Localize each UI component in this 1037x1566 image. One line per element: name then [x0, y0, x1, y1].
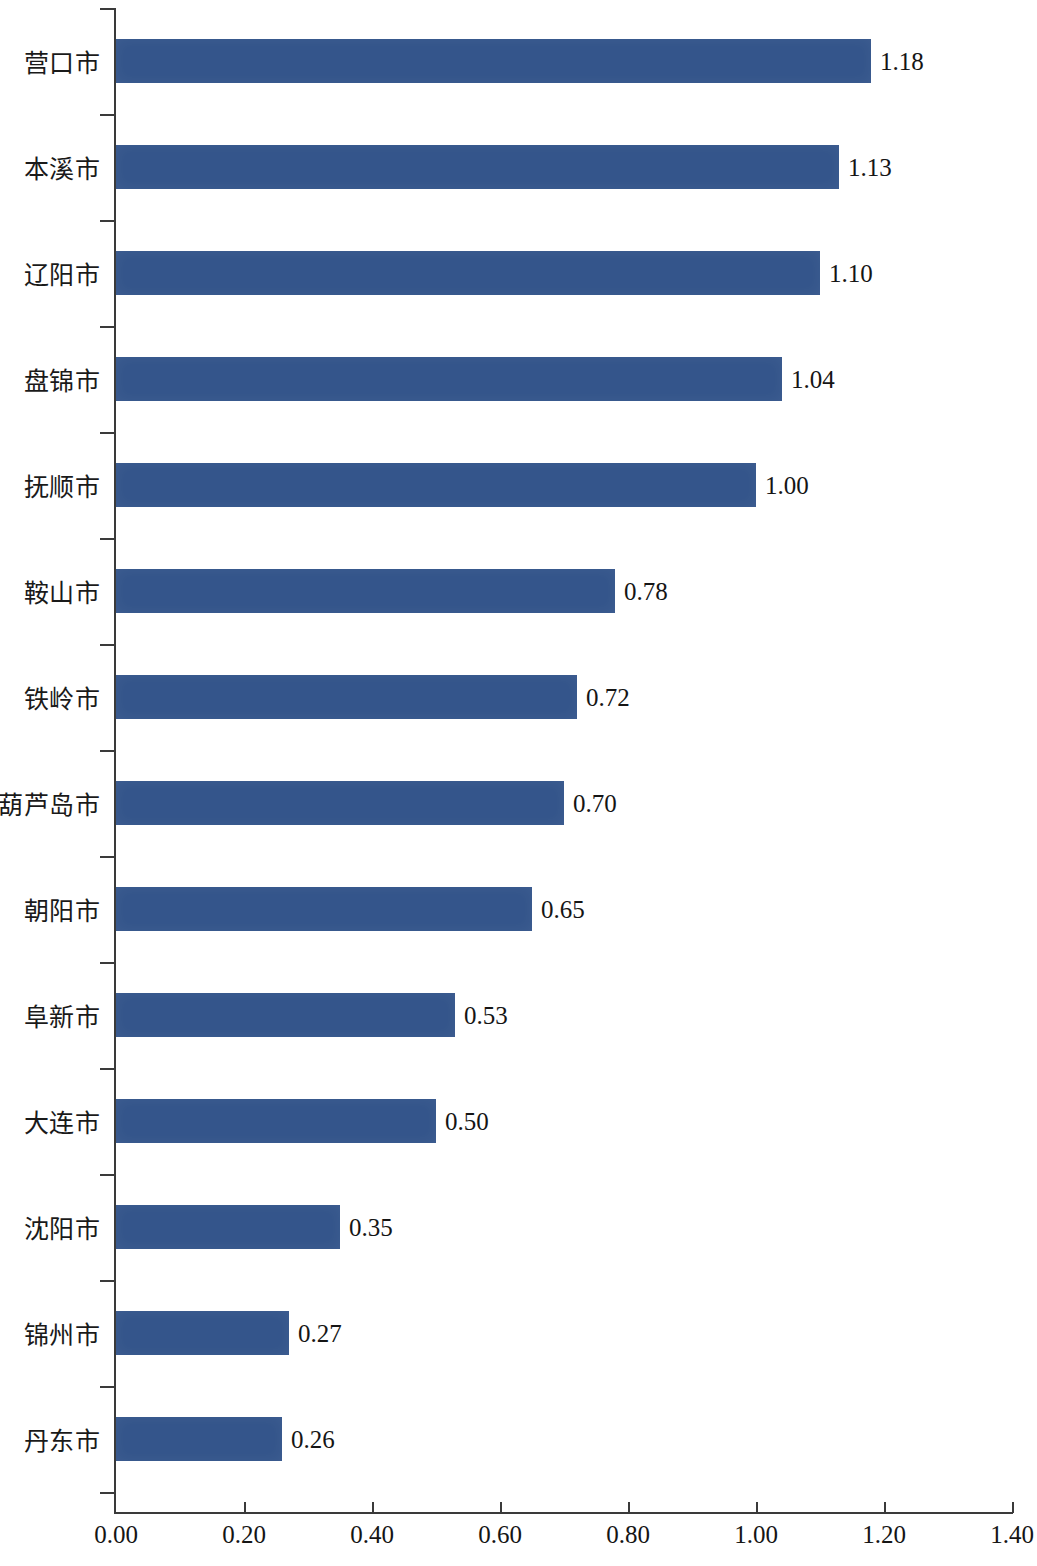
bar-and-value: 0.27 — [116, 1311, 342, 1355]
bar — [116, 1205, 340, 1249]
category-label: 朝阳市 — [0, 856, 100, 962]
bar-row: 丹东市0.26 — [0, 1386, 1037, 1492]
x-axis-tick-label: 0.80 — [568, 1521, 688, 1549]
bar-row: 鞍山市0.78 — [0, 538, 1037, 644]
category-label: 葫芦岛市 — [0, 750, 100, 856]
bar-value-label: 0.70 — [573, 791, 617, 816]
bar-value-label: 1.13 — [848, 155, 892, 180]
category-label: 阜新市 — [0, 962, 100, 1068]
bar-and-value: 0.35 — [116, 1205, 393, 1249]
category-label: 本溪市 — [0, 114, 100, 220]
x-axis-tick — [884, 1502, 886, 1513]
bar — [116, 1311, 289, 1355]
bar — [116, 463, 756, 507]
bar — [116, 781, 564, 825]
category-label: 营口市 — [0, 8, 100, 114]
category-label: 鞍山市 — [0, 538, 100, 644]
category-label: 锦州市 — [0, 1280, 100, 1386]
bar-and-value: 0.78 — [116, 569, 668, 613]
bar-row: 朝阳市0.65 — [0, 856, 1037, 962]
bar-value-label: 0.26 — [291, 1427, 335, 1452]
bar-and-value: 0.72 — [116, 675, 630, 719]
bar-value-label: 0.50 — [445, 1109, 489, 1134]
bar — [116, 675, 577, 719]
bar-value-label: 0.78 — [624, 579, 668, 604]
bar — [116, 1417, 282, 1461]
x-axis-tick-label: 0.60 — [440, 1521, 560, 1549]
bar-row: 铁岭市0.72 — [0, 644, 1037, 750]
bar — [116, 145, 839, 189]
x-axis-tick — [628, 1502, 630, 1513]
bar-row: 盘锦市1.04 — [0, 326, 1037, 432]
bar — [116, 251, 820, 295]
bar-row: 葫芦岛市0.70 — [0, 750, 1037, 856]
bar-value-label: 0.27 — [298, 1321, 342, 1346]
x-axis-tick — [1012, 1502, 1014, 1513]
category-label: 抚顺市 — [0, 432, 100, 538]
x-axis-tick-label: 1.00 — [696, 1521, 816, 1549]
bar-value-label: 1.04 — [791, 367, 835, 392]
x-axis-tick-label: 1.20 — [824, 1521, 944, 1549]
x-axis-line — [114, 1512, 1013, 1514]
x-axis-tick-label: 0.00 — [56, 1521, 176, 1549]
bar-and-value: 0.50 — [116, 1099, 489, 1143]
bar-value-label: 1.10 — [829, 261, 873, 286]
bar-value-label: 0.72 — [586, 685, 630, 710]
bar-value-label: 1.18 — [880, 49, 924, 74]
category-label: 丹东市 — [0, 1386, 100, 1492]
y-axis-tick — [100, 1492, 114, 1494]
bar-and-value: 0.65 — [116, 887, 585, 931]
bar-value-label: 0.35 — [349, 1215, 393, 1240]
category-label: 铁岭市 — [0, 644, 100, 750]
x-axis-tick — [756, 1502, 758, 1513]
category-label: 盘锦市 — [0, 326, 100, 432]
bar-row: 辽阳市1.10 — [0, 220, 1037, 326]
bar-row: 大连市0.50 — [0, 1068, 1037, 1174]
bar-and-value: 0.70 — [116, 781, 617, 825]
bar — [116, 569, 615, 613]
bar — [116, 887, 532, 931]
bar-value-label: 1.00 — [765, 473, 809, 498]
bar-and-value: 1.13 — [116, 145, 892, 189]
x-axis-tick-label: 0.40 — [312, 1521, 432, 1549]
bar-row: 锦州市0.27 — [0, 1280, 1037, 1386]
bar-row: 阜新市0.53 — [0, 962, 1037, 1068]
bar — [116, 357, 782, 401]
category-label: 辽阳市 — [0, 220, 100, 326]
category-label: 沈阳市 — [0, 1174, 100, 1280]
bar — [116, 39, 871, 83]
x-axis-tick-label: 0.20 — [184, 1521, 304, 1549]
bar-and-value: 1.00 — [116, 463, 809, 507]
bar-row: 抚顺市1.00 — [0, 432, 1037, 538]
bar-and-value: 0.26 — [116, 1417, 335, 1461]
x-axis-tick-label: 1.40 — [952, 1521, 1037, 1549]
bar-value-label: 0.53 — [464, 1003, 508, 1028]
x-axis-tick — [372, 1502, 374, 1513]
bar-row: 营口市1.18 — [0, 8, 1037, 114]
bar — [116, 1099, 436, 1143]
category-label: 大连市 — [0, 1068, 100, 1174]
bar-and-value: 1.10 — [116, 251, 873, 295]
bar-row: 沈阳市0.35 — [0, 1174, 1037, 1280]
bar-row: 本溪市1.13 — [0, 114, 1037, 220]
bar-chart: 营口市1.18本溪市1.13辽阳市1.10盘锦市1.04抚顺市1.00鞍山市0.… — [0, 0, 1037, 1566]
bar-and-value: 1.18 — [116, 39, 924, 83]
bar — [116, 993, 455, 1037]
x-axis-tick — [500, 1502, 502, 1513]
bar-and-value: 1.04 — [116, 357, 835, 401]
bar-and-value: 0.53 — [116, 993, 508, 1037]
x-axis-tick — [244, 1502, 246, 1513]
bar-value-label: 0.65 — [541, 897, 585, 922]
